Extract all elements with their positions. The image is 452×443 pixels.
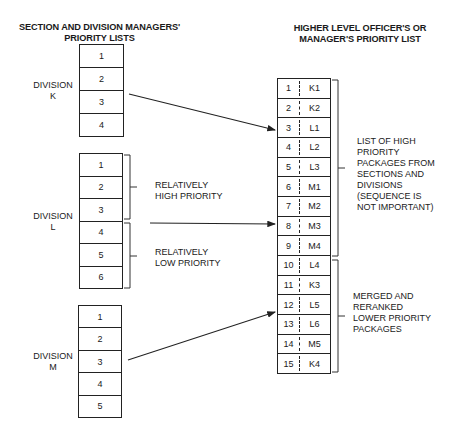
bracket-right-low: [332, 260, 345, 372]
bracket-high: [124, 155, 137, 219]
connectors: [0, 0, 452, 443]
arrow-division-m: [128, 312, 275, 360]
bracket-right-high: [332, 80, 345, 256]
bracket-low: [124, 223, 137, 288]
arrow-division-l: [150, 223, 275, 224]
arrow-division-k: [129, 94, 275, 130]
